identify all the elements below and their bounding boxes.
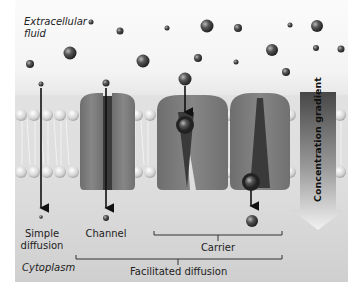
simple-diffusion-label: Simple diffusion bbox=[20, 228, 64, 252]
carrier-label: Carrier bbox=[196, 242, 240, 254]
channel-protein bbox=[80, 93, 135, 190]
extracellular-label-line2: fluid bbox=[24, 28, 87, 40]
facilitated-bracket bbox=[76, 255, 282, 265]
facilitated-diffusion-label: Facilitated diffusion bbox=[130, 266, 226, 278]
simple-diffusion-label-line1: Simple bbox=[20, 228, 64, 240]
membrane-illustration bbox=[0, 0, 360, 297]
extracellular-label: Extracellular fluid bbox=[24, 16, 87, 40]
cytoplasm-label: Cytoplasm bbox=[22, 262, 75, 274]
extracellular-label-line1: Extracellular bbox=[24, 16, 87, 28]
concentration-gradient-label: Concentration gradient bbox=[312, 90, 324, 202]
carrier-bracket bbox=[154, 231, 282, 241]
channel-label: Channel bbox=[84, 228, 128, 240]
carrier-protein-open-inside bbox=[230, 93, 290, 190]
simple-diffusion-label-line2: diffusion bbox=[20, 240, 64, 252]
